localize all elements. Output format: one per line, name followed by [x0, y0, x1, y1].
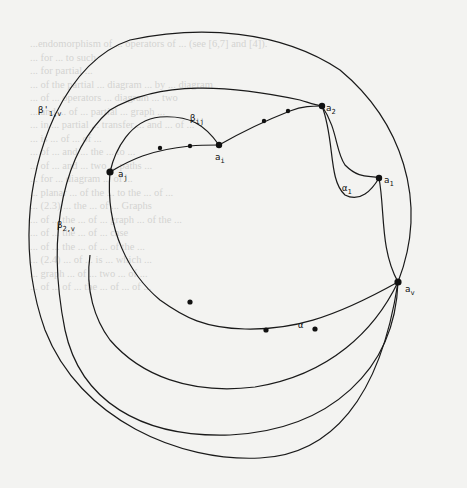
edge-alpha-1: [322, 106, 379, 197]
label-alpha: α: [298, 320, 304, 330]
label-av: av: [405, 284, 415, 297]
vertex-aj: [106, 168, 113, 175]
label-ai: ai: [215, 152, 225, 165]
label-beta-ij: βij: [190, 113, 204, 126]
paper-page: ...endomorphism of ... operators of ... …: [0, 0, 467, 488]
vertex-av: [394, 278, 401, 285]
edge-ai-a2: [219, 106, 322, 145]
label-beta-1v: β'1,v: [38, 105, 62, 118]
label-beta-2v: β2,v: [57, 220, 75, 233]
label-a1: a1: [384, 175, 394, 188]
vertex-a1: [376, 175, 382, 181]
outer-curve-beta-1v: [29, 32, 411, 458]
edge-a1-av: [379, 178, 398, 282]
curve-to-a2: [300, 100, 322, 106]
vertex-ai: [216, 142, 222, 148]
curve-inner-av: [89, 255, 398, 389]
vertex-a2: [319, 103, 325, 109]
edge-aj-ai: [110, 145, 219, 172]
graph-diagram: a2 ai aj a1 av βij β'1,v β2,v α1 α: [0, 0, 467, 488]
label-aj: aj: [118, 169, 128, 182]
edge-alpha: [109, 172, 398, 329]
